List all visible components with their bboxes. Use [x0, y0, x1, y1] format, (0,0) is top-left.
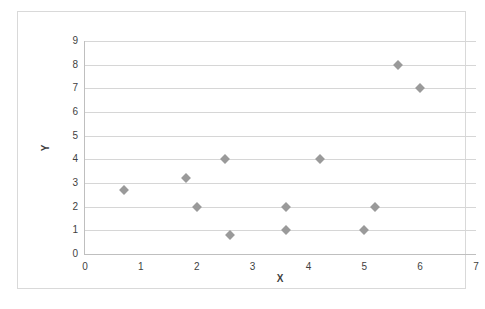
- scatter-point[interactable]: [220, 154, 230, 164]
- gridline-horizontal: [85, 136, 476, 137]
- x-axis-tick-label: 7: [473, 262, 479, 272]
- gridline-horizontal: [85, 159, 476, 160]
- y-axis-tick-label: 1: [72, 225, 78, 235]
- scatter-point[interactable]: [281, 225, 291, 235]
- y-axis-tick-label: 5: [72, 131, 78, 141]
- x-axis-tick-label: 6: [417, 262, 423, 272]
- gridline-horizontal: [85, 230, 476, 231]
- y-axis-tick-label: 2: [72, 202, 78, 212]
- scatter-point[interactable]: [415, 83, 425, 93]
- y-axis-tick-label: 7: [72, 83, 78, 93]
- scatter-point[interactable]: [315, 154, 325, 164]
- x-axis-tick-label: 3: [250, 262, 256, 272]
- x-axis-tick-label: 2: [194, 262, 200, 272]
- scatter-point[interactable]: [181, 173, 191, 183]
- y-axis-tick-label: 0: [72, 249, 78, 259]
- x-axis-tick-label: 4: [306, 262, 312, 272]
- scatter-plot-area: 012345678901234567: [84, 41, 476, 255]
- scatter-point[interactable]: [119, 185, 129, 195]
- scatter-point[interactable]: [393, 60, 403, 70]
- y-axis-tick-label: 4: [72, 154, 78, 164]
- x-axis-tick-label: 0: [82, 262, 88, 272]
- scatter-point[interactable]: [225, 230, 235, 240]
- scatter-point[interactable]: [192, 202, 202, 212]
- y-axis-tick-label: 6: [72, 107, 78, 117]
- y-axis-title: Y: [41, 145, 51, 152]
- gridline-horizontal: [85, 112, 476, 113]
- x-axis-tick-label: 5: [362, 262, 368, 272]
- x-axis-tick-label: 1: [138, 262, 144, 272]
- gridline-horizontal: [85, 183, 476, 184]
- y-axis-tick-label: 8: [72, 60, 78, 70]
- gridline-horizontal: [85, 41, 476, 42]
- chart-frame: 012345678901234567 X Y: [17, 11, 466, 289]
- scatter-point[interactable]: [359, 225, 369, 235]
- scatter-point[interactable]: [281, 202, 291, 212]
- y-axis-tick-label: 3: [72, 178, 78, 188]
- scatter-point[interactable]: [371, 202, 381, 212]
- y-axis-tick-label: 9: [72, 36, 78, 46]
- x-axis-title: X: [84, 274, 476, 284]
- gridline-horizontal: [85, 65, 476, 66]
